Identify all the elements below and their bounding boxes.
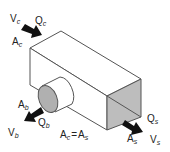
label-qb: Qb xyxy=(38,117,50,129)
label-ac: Ac xyxy=(12,36,23,48)
label-ab: Ab xyxy=(18,99,29,111)
duct-junction-diagram: Vc Qc Ac Ab Vb Qb Qs As Vs Ac=As xyxy=(0,0,170,152)
area-equation: Ac=As xyxy=(60,129,89,141)
label-vc: Vc xyxy=(10,13,21,25)
inlet-arrow-icon xyxy=(21,24,42,38)
label-vs: Vs xyxy=(150,134,161,146)
label-as: As xyxy=(127,133,138,145)
label-vb: Vb xyxy=(8,127,19,139)
label-qc: Qc xyxy=(35,15,47,27)
duct-body xyxy=(30,31,141,130)
label-qs: Qs xyxy=(147,113,159,125)
